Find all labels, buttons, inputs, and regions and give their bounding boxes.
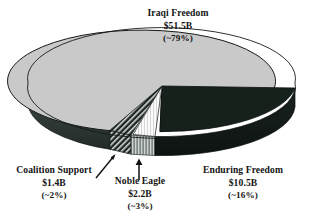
label-noble-eagle-percent: (~3%) [98, 200, 182, 212]
label-noble-eagle: Noble Eagle $2.2B (~3%) [98, 175, 182, 212]
label-noble-eagle-name: Noble Eagle [98, 175, 182, 188]
label-coalition-support-percent: (~2%) [2, 189, 106, 201]
label-enduring-freedom-percent: (~16%) [184, 189, 302, 201]
label-enduring-freedom: Enduring Freedom $10.5B (~16%) [184, 164, 302, 201]
label-iraqi-freedom: Iraqi Freedom $51.5B (~79%) [118, 7, 238, 44]
label-enduring-freedom-value: $10.5B [184, 177, 302, 190]
label-coalition-support-name: Coalition Support [2, 164, 106, 177]
label-iraqi-freedom-name: Iraqi Freedom [118, 7, 238, 20]
label-enduring-freedom-name: Enduring Freedom [184, 164, 302, 177]
label-coalition-support: Coalition Support $1.4B (~2%) [2, 164, 106, 201]
label-noble-eagle-value: $2.2B [98, 188, 182, 201]
label-iraqi-freedom-value: $51.5B [118, 20, 238, 33]
label-iraqi-freedom-percent: (~79%) [118, 32, 238, 44]
pie-chart-figure: Iraqi Freedom $51.5B (~79%) Coalition Su… [0, 0, 314, 217]
label-coalition-support-value: $1.4B [2, 177, 106, 190]
